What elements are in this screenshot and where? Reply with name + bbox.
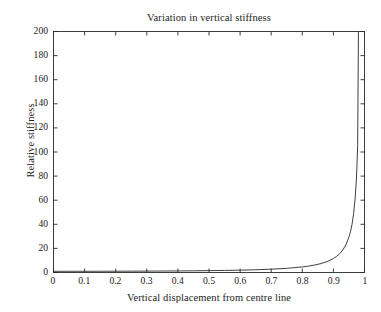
axes-frame (54, 32, 365, 273)
chart-figure: Variation in vertical stiffness Relative… (0, 0, 381, 312)
plot-area (0, 0, 381, 312)
axis-ticks (54, 32, 365, 273)
stiffness-curve (54, 32, 359, 272)
